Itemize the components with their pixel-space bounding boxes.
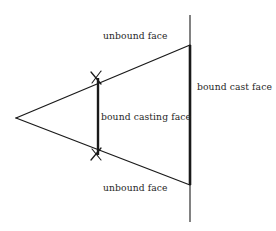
- triangle-lower-edge: [16, 118, 190, 185]
- tick-mark-lower: [91, 148, 101, 160]
- label-unbound-face-bottom: unbound face: [103, 183, 168, 192]
- diagram-canvas: unbound face bound cast face bound casti…: [0, 0, 276, 231]
- label-unbound-face-top: unbound face: [103, 31, 168, 40]
- label-bound-cast-face: bound cast face: [197, 82, 272, 91]
- label-bound-casting-face: bound casting face: [101, 112, 191, 121]
- tick-mark-upper: [91, 71, 101, 84]
- triangle-upper-edge: [16, 45, 190, 118]
